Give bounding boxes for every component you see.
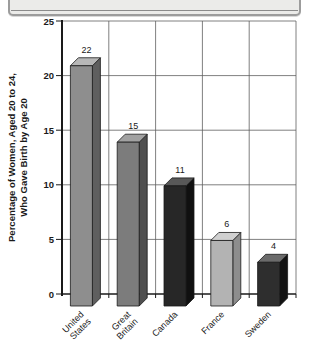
bar-value-label: 15: [128, 121, 138, 131]
textbook-figure: 0510152025Percentage of Women, Aged 20 t…: [0, 0, 309, 357]
y-tick-label: 15: [43, 125, 54, 136]
x-category-label-france: France: [199, 309, 226, 336]
x-category-label-sweden: Sweden: [243, 309, 273, 339]
bar-side-face: [186, 178, 194, 306]
bar-front-face: [164, 186, 186, 306]
bar-value-label: 11: [175, 165, 184, 175]
bar-front-face: [211, 240, 233, 306]
bar-side-face: [233, 232, 241, 306]
bar-side-face: [92, 58, 100, 306]
y-tick-label: 0: [49, 289, 54, 300]
bar-value-label: 22: [81, 45, 91, 55]
y-tick-label: 5: [49, 234, 55, 245]
y-tick-label: 25: [43, 16, 54, 27]
bar-france: [211, 232, 241, 306]
bar-front-face: [258, 262, 280, 306]
bar-front-face: [70, 66, 92, 306]
x-category-label-united-states: UnitedStates: [60, 309, 93, 342]
bar-sweden: [258, 254, 288, 306]
x-category-label-great-britain: GreatBritain: [108, 309, 141, 342]
bar-value-label: 6: [224, 219, 229, 229]
y-tick-label: 20: [43, 70, 54, 81]
y-axis-title: Percentage of Women, Aged 20 to 24,Who G…: [6, 73, 29, 242]
y-tick-label: 10: [43, 179, 54, 190]
bar-value-label: 4: [271, 241, 276, 251]
bar-chart: 0510152025Percentage of Women, Aged 20 t…: [0, 0, 309, 357]
bar-front-face: [117, 142, 139, 306]
bar-great-britain: [117, 134, 147, 306]
bar-canada: [164, 178, 194, 306]
bar-side-face: [280, 254, 288, 306]
bar-side-face: [139, 134, 147, 306]
x-category-label-canada: Canada: [150, 309, 179, 338]
bar-united-states: [70, 58, 100, 306]
